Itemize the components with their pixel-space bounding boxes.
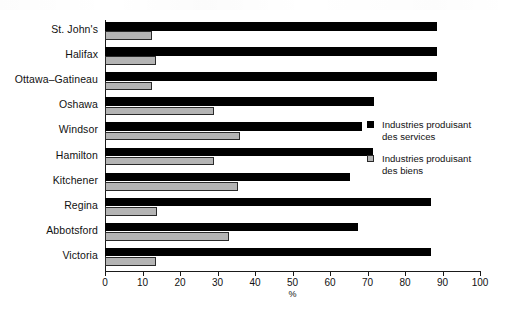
bar-biens	[105, 257, 156, 266]
bar-biens	[105, 132, 240, 141]
x-tick-label: 10	[123, 277, 163, 288]
x-tick	[480, 272, 481, 276]
bar-biens	[105, 82, 152, 91]
chart-legend: Industries produisant des services Indus…	[367, 119, 511, 187]
category-label: St. John's	[2, 23, 98, 36]
x-tick-label: 20	[160, 277, 200, 288]
x-axis-title: %	[105, 289, 480, 299]
x-tick-label: 60	[310, 277, 350, 288]
category-label: Victoria	[2, 249, 98, 262]
legend-swatch-services-icon	[367, 121, 374, 128]
bar-biens	[105, 157, 214, 166]
bar-services	[105, 122, 362, 131]
bar-biens	[105, 107, 214, 116]
bar-services	[105, 22, 437, 31]
category-row: Halifax	[105, 45, 480, 70]
x-tick-label: 90	[423, 277, 463, 288]
bar-biens	[105, 207, 157, 216]
category-row: Abbotsford	[105, 221, 480, 246]
x-tick-label: 30	[198, 277, 238, 288]
x-tick	[368, 272, 369, 276]
x-tick	[180, 272, 181, 276]
category-label: Abbotsford	[2, 224, 98, 237]
x-tick	[330, 272, 331, 276]
legend-item-services[interactable]: Industries produisant des services	[367, 119, 511, 142]
x-tick	[255, 272, 256, 276]
bar-services	[105, 72, 437, 81]
x-tick-label: 50	[273, 277, 313, 288]
category-row: St. John's	[105, 20, 480, 45]
legend-swatch-biens-icon	[367, 155, 374, 162]
category-label: Halifax	[2, 48, 98, 61]
x-tick-label: 100	[460, 277, 500, 288]
legend-label-services-line2: des services	[382, 131, 511, 143]
bar-services	[105, 223, 358, 232]
category-label: Oshawa	[2, 98, 98, 111]
bar-biens	[105, 31, 152, 40]
category-row: Regina	[105, 196, 480, 221]
x-tick-label: 0	[85, 277, 125, 288]
category-label: Ottawa–Gatineau	[2, 73, 98, 86]
x-tick	[405, 272, 406, 276]
category-label: Regina	[2, 199, 98, 212]
legend-label-biens-line2: des biens	[382, 165, 511, 177]
category-row: Oshawa	[105, 95, 480, 120]
legend-label-services-line1: Industries produisant	[382, 119, 471, 130]
x-tick	[105, 272, 106, 276]
x-tick	[218, 272, 219, 276]
bar-services	[105, 198, 431, 207]
x-tick-label: 80	[385, 277, 425, 288]
category-row: Ottawa–Gatineau	[105, 70, 480, 95]
legend-item-biens[interactable]: Industries produisant des biens	[367, 153, 511, 176]
bar-biens	[105, 232, 229, 241]
bar-services	[105, 97, 374, 106]
bar-biens	[105, 182, 238, 191]
category-label: Kitchener	[2, 174, 98, 187]
bar-services	[105, 47, 437, 56]
x-tick	[143, 272, 144, 276]
x-tick	[443, 272, 444, 276]
chart-root: St. John'sHalifaxOttawa–GatineauOshawaWi…	[0, 0, 511, 315]
category-row: Victoria	[105, 246, 480, 271]
scan-artifact	[0, 0, 511, 10]
bar-services	[105, 248, 431, 257]
category-label: Windsor	[2, 123, 98, 136]
bar-biens	[105, 56, 156, 65]
legend-label-biens-line1: Industries produisant	[382, 153, 471, 164]
category-label: Hamilton	[2, 149, 98, 162]
bar-services	[105, 173, 350, 182]
bar-services	[105, 148, 373, 157]
x-tick	[293, 272, 294, 276]
x-tick-label: 40	[235, 277, 275, 288]
x-tick-label: 70	[348, 277, 388, 288]
